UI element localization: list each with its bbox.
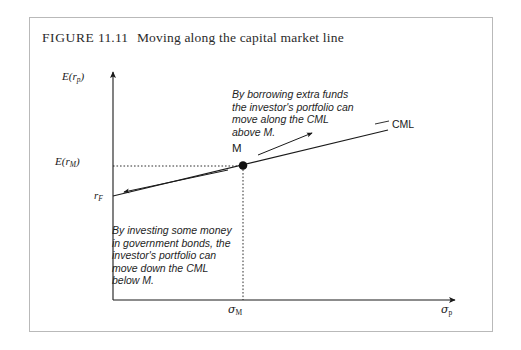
y-tick-label-erm: E(rM) [55, 155, 80, 167]
y-axis-label-close: ) [80, 70, 84, 82]
x-axis-label-main: σ [441, 303, 449, 316]
annotation-borrowing: By borrowing extra funds the investor's … [232, 88, 354, 138]
x-tick-label-sigmam-sub: M [236, 308, 243, 317]
figure-page: FIGURE 11.11 Moving along the capital ma… [0, 0, 521, 350]
y-tick-label-rf-sub: F [98, 194, 103, 203]
x-tick-label-sigmam-main: σ [228, 303, 236, 316]
market-portfolio-label: M [232, 142, 242, 154]
y-axis-label: E(rp) [62, 70, 84, 82]
x-axis-label: σp [441, 303, 452, 316]
y-axis-label-main: E(r [62, 70, 77, 82]
y-tick-label-erm-main: E(r [55, 155, 70, 167]
y-tick-label-rf: rF [94, 189, 103, 201]
market-portfolio-point [239, 161, 248, 170]
x-tick-label-sigmam: σM [228, 303, 242, 316]
cml-label-leader [375, 121, 389, 124]
cml-label: CML [392, 118, 414, 130]
y-axis-label-sub: p [77, 75, 81, 84]
arrow-down-left [124, 170, 228, 192]
y-tick-label-erm-sub: M [70, 160, 76, 169]
annotation-lending: By investing some money in government bo… [112, 224, 232, 287]
y-tick-label-erm-close: ) [76, 155, 80, 167]
chart-canvas [0, 0, 521, 350]
x-axis-label-sub: p [449, 308, 453, 317]
